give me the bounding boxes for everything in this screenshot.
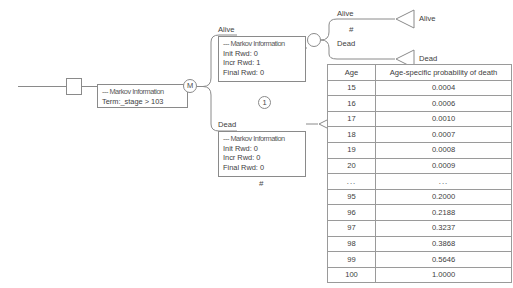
- cell-probability: 0.0008: [376, 142, 512, 158]
- chance-to-alive-line: [321, 19, 395, 40]
- cell-age: 98: [328, 236, 376, 252]
- table-header-row: Age Age-specific probability of death: [328, 65, 512, 81]
- cell-probability: 0.2188: [376, 205, 512, 221]
- dead-markov-info-header: --- Markov Information: [223, 134, 302, 144]
- cell-age: 20: [328, 158, 376, 174]
- table-row: 16 0.0006: [328, 96, 512, 112]
- table-row: 18 0.0007: [328, 127, 512, 143]
- table-row: 98 0.3868: [328, 236, 512, 252]
- root-markov-info-line-0: Term:_stage > 103: [102, 97, 184, 107]
- terminal-node-alive[interactable]: [395, 9, 415, 29]
- table-row: 15 0.0004: [328, 80, 512, 96]
- dead-incr-rwd: Incr Rwd: 0: [223, 153, 302, 163]
- state-label-dead: Dead: [218, 121, 236, 129]
- cell-age: 95: [328, 189, 376, 205]
- branch-alive-probability: #: [349, 26, 353, 34]
- alive-probability-marker: 1: [258, 96, 271, 109]
- cell-age: 100: [328, 267, 376, 283]
- cell-probability: 0.3868: [376, 236, 512, 252]
- root-markov-info-header: --- Markov Information: [102, 87, 184, 97]
- cell-age: 16: [328, 96, 376, 112]
- age-death-probability-table: Age Age-specific probability of death 15…: [327, 64, 512, 283]
- alive-final-rwd: Final Rwd: 0: [223, 68, 302, 78]
- branch-label-alive: Alive: [337, 10, 353, 18]
- table-row: 99 0.5646: [328, 252, 512, 268]
- cell-probability: 0.0004: [376, 80, 512, 96]
- cell-age: 97: [328, 220, 376, 236]
- table-row: 19 0.0008: [328, 142, 512, 158]
- table-row: 96 0.2188: [328, 205, 512, 221]
- cell-probability: 0.5646: [376, 252, 512, 268]
- alive-incr-rwd: Incr Rwd: 1: [223, 58, 302, 68]
- cell-probability: 1.0000: [376, 267, 512, 283]
- cell-age: 15: [328, 80, 376, 96]
- table-row: 20 0.0009: [328, 158, 512, 174]
- dead-init-rwd: Init Rwd: 0: [223, 144, 302, 154]
- cell-probability: 0.0010: [376, 111, 512, 127]
- chance-to-dead-line: [321, 40, 395, 59]
- cell-probability: 0.3237: [376, 220, 512, 236]
- column-header-age: Age: [328, 65, 376, 81]
- terminal-label-alive: Alive: [419, 15, 435, 23]
- table-row: 17 0.0010: [328, 111, 512, 127]
- cell-probability: 0.0006: [376, 96, 512, 112]
- cell-probability: 0.0009: [376, 158, 512, 174]
- cell-probability: ...: [376, 174, 512, 190]
- cell-age: 17: [328, 111, 376, 127]
- root-markov-info-box[interactable]: --- Markov Information Term:_stage > 103: [97, 84, 188, 108]
- cell-probability: 0.2000: [376, 189, 512, 205]
- markov-node-label: M: [187, 82, 193, 90]
- cell-age: ...: [328, 174, 376, 190]
- decision-node-square[interactable]: [66, 78, 82, 95]
- alive-markov-info-header: --- Markov Information: [223, 39, 302, 49]
- column-header-probability: Age-specific probability of death: [376, 65, 512, 81]
- terminal-label-dead-branch: Dead: [419, 55, 437, 63]
- alive-init-rwd: Init Rwd: 0: [223, 49, 302, 59]
- diagram-canvas: --- Markov Information Term:_stage > 103…: [0, 0, 513, 288]
- cell-age: 18: [328, 127, 376, 143]
- table-row-ellipsis: ... ...: [328, 174, 512, 190]
- dead-markov-info-box[interactable]: --- Markov Information Init Rwd: 0 Incr …: [218, 131, 306, 177]
- dead-final-rwd: Final Rwd: 0: [223, 163, 302, 173]
- chance-node-circle[interactable]: [307, 33, 321, 47]
- table-row: 100 1.0000: [328, 267, 512, 283]
- dead-probability-marker: #: [259, 180, 263, 188]
- state-label-alive: Alive: [218, 26, 234, 34]
- table-row: 97 0.3237: [328, 220, 512, 236]
- branch-label-dead: Dead: [337, 40, 355, 48]
- cell-age: 19: [328, 142, 376, 158]
- alive-probability-value: 1: [262, 99, 266, 107]
- cell-probability: 0.0007: [376, 127, 512, 143]
- markov-node-circle[interactable]: M: [183, 79, 197, 93]
- alive-markov-info-box[interactable]: --- Markov Information Init Rwd: 0 Incr …: [218, 36, 306, 82]
- cell-age: 96: [328, 205, 376, 221]
- cell-age: 99: [328, 252, 376, 268]
- table-row: 95 0.2000: [328, 189, 512, 205]
